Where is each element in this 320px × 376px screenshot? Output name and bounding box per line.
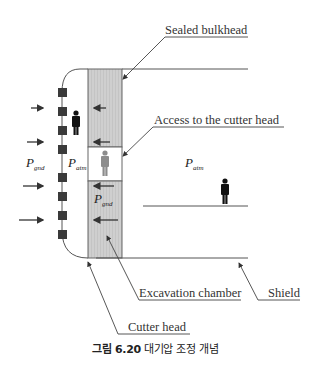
figure-caption: 그림 6.20 대기압 조정 개념 <box>92 340 218 356</box>
label-sealed-bulkhead: Sealed bulkhead <box>165 24 247 37</box>
person-icon-tunnel <box>221 178 229 204</box>
symbol-p-gnd-outer: Pgnd <box>26 156 44 172</box>
label-excavation-chamber: Excavation chamber <box>139 287 241 300</box>
symbol-p-atm-inner: Patm <box>68 156 86 172</box>
label-access-cutter-head: Access to the cutter head <box>154 114 279 127</box>
label-shield: Shield <box>268 287 300 300</box>
symbol-p-atm-right: Patm <box>185 156 203 172</box>
figure-number: 그림 6.20 <box>92 343 141 356</box>
figure-title: 대기압 조정 개념 <box>144 343 218 356</box>
symbol-p-gnd-chamber: Pgnd <box>94 192 112 208</box>
person-icon-cutter <box>72 110 80 135</box>
label-cutter-head: Cutter head <box>128 321 186 334</box>
